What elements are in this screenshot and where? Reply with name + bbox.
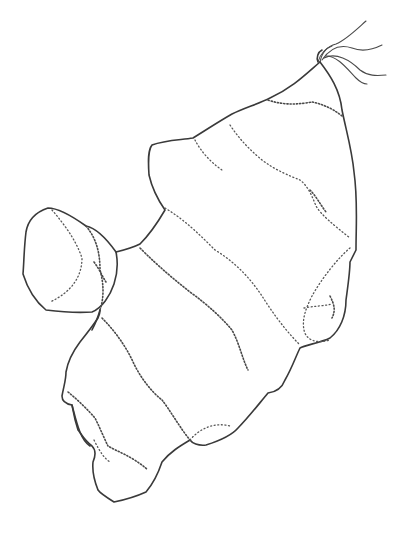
illustration-canvas xyxy=(0,0,412,539)
rhizome-upper-edge xyxy=(116,62,320,252)
lower-flap xyxy=(72,405,90,446)
ginger-rhizome-drawing xyxy=(0,0,412,539)
nodule-stipple xyxy=(50,210,106,310)
stippled-rings xyxy=(68,100,350,470)
nodule-joint xyxy=(92,310,100,330)
